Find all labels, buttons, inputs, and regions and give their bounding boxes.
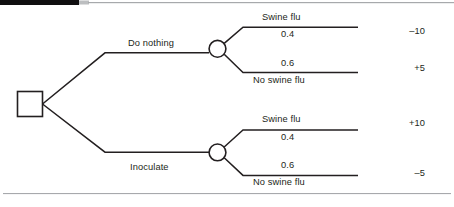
- probability-label-inoculate-swine-flu: 0.4: [281, 133, 294, 142]
- outcome-label-inoculate-swine-flu: Swine flu: [262, 115, 301, 124]
- bottom-rule: [3, 193, 451, 194]
- branch-line-do-nothing: [43, 53, 210, 104]
- probability-label-inoculate-no-swine-flu: 0.6: [281, 161, 294, 170]
- action-label-inoculate: Inoculate: [130, 163, 169, 172]
- probability-label-do-nothing-no-swine-flu: 0.6: [281, 59, 294, 68]
- top-rule-transition: [79, 1, 89, 5]
- action-label-do-nothing: Do nothing: [128, 39, 174, 48]
- outcome-label-inoculate-no-swine-flu: No swine flu: [253, 178, 305, 187]
- top-rule-black: [0, 0, 79, 5]
- top-rule-gray: [88, 2, 454, 3]
- payoff-label-inoculate-swine-flu: +10: [399, 119, 425, 128]
- probability-label-do-nothing-swine-flu: 0.4: [281, 30, 294, 39]
- branch-line-inoculate: [43, 104, 210, 152]
- decision-tree-canvas: [0, 0, 454, 207]
- payoff-label-do-nothing-swine-flu: –10: [399, 27, 425, 36]
- chance-node-circle-do-nothing: [209, 40, 226, 57]
- outcome-label-do-nothing-swine-flu: Swine flu: [262, 13, 301, 22]
- outcome-label-do-nothing-no-swine-flu: No swine flu: [253, 76, 305, 85]
- chance-node-circle-inoculate: [209, 144, 226, 161]
- payoff-label-inoculate-no-swine-flu: –5: [399, 169, 425, 178]
- decision-node-square: [18, 92, 43, 117]
- decision-tree-figure: Do nothing Swine flu 0.4 –10 0.6 No swin…: [0, 0, 454, 207]
- payoff-label-do-nothing-no-swine-flu: +5: [399, 64, 425, 73]
